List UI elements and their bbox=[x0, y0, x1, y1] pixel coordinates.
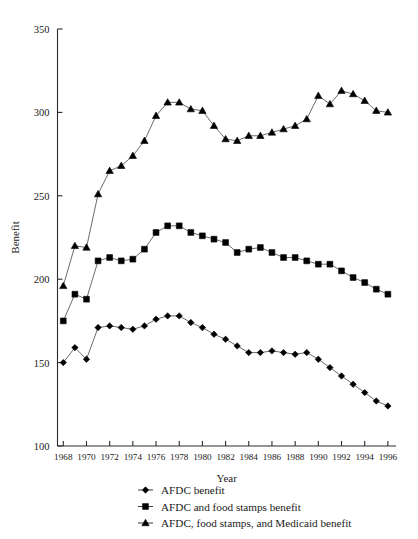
x-tick-label: 1988 bbox=[286, 452, 305, 462]
data-point-marker bbox=[269, 250, 275, 256]
data-point-marker bbox=[141, 137, 148, 143]
x-tick-label: 1976 bbox=[147, 452, 166, 462]
data-point-marker bbox=[292, 351, 298, 357]
data-point-marker bbox=[153, 316, 159, 322]
data-point-marker bbox=[72, 291, 78, 297]
y-tick-label: 100 bbox=[34, 441, 50, 452]
data-point-marker bbox=[280, 349, 286, 355]
data-point-marker bbox=[281, 255, 287, 261]
series-square bbox=[60, 223, 390, 324]
data-point-marker bbox=[176, 313, 182, 319]
y-tick-label: 350 bbox=[34, 24, 50, 35]
x-tick-label: 1972 bbox=[100, 452, 119, 462]
data-point-marker bbox=[257, 349, 263, 355]
y-axis: 100150200250300350 bbox=[34, 24, 63, 452]
x-tick-label: 1986 bbox=[263, 452, 282, 462]
data-point-marker bbox=[106, 167, 113, 173]
data-point-marker bbox=[362, 280, 368, 286]
data-point-marker bbox=[373, 286, 379, 292]
data-point-marker bbox=[327, 364, 333, 370]
legend-item: AFDC, food stamps, and Medicaid benefit bbox=[138, 517, 352, 529]
data-point-marker bbox=[176, 99, 183, 105]
x-tick-label: 1970 bbox=[77, 452, 96, 462]
data-point-marker bbox=[118, 258, 124, 264]
data-point-marker bbox=[385, 403, 391, 409]
data-point-marker bbox=[327, 261, 333, 267]
x-tick-label: 1968 bbox=[54, 452, 73, 462]
x-tick-label: 1974 bbox=[124, 452, 143, 462]
data-point-marker bbox=[338, 373, 344, 379]
y-tick-label: 200 bbox=[34, 274, 50, 285]
data-point-marker bbox=[373, 398, 379, 404]
x-tick-label: 1990 bbox=[309, 452, 328, 462]
legend-item: AFDC benefit bbox=[138, 484, 226, 496]
data-point-marker bbox=[315, 261, 321, 267]
chart-legend: AFDC benefitAFDC and food stamps benefit… bbox=[138, 484, 352, 529]
data-point-marker bbox=[164, 313, 170, 319]
data-point-marker bbox=[188, 319, 194, 325]
data-point-marker bbox=[303, 115, 310, 121]
x-tick-label: 1994 bbox=[356, 452, 375, 462]
data-point-marker bbox=[223, 240, 229, 246]
benefit-line-chart: 100150200250300350 196819701972197419761… bbox=[0, 0, 418, 539]
data-point-marker bbox=[269, 348, 275, 354]
y-tick-label: 150 bbox=[34, 358, 50, 369]
data-point-marker bbox=[95, 324, 101, 330]
data-point-marker bbox=[142, 246, 148, 252]
data-point-marker bbox=[164, 99, 171, 105]
legend-item: AFDC and food stamps benefit bbox=[138, 501, 302, 513]
data-point-marker bbox=[141, 323, 147, 329]
x-tick-label: 1984 bbox=[240, 452, 259, 462]
data-point-marker bbox=[130, 256, 136, 262]
legend-marker-diamond-icon bbox=[142, 487, 148, 493]
data-point-marker bbox=[385, 291, 391, 297]
data-point-marker bbox=[246, 349, 252, 355]
data-point-marker bbox=[350, 275, 356, 281]
legend-item-label: AFDC and food stamps benefit bbox=[161, 501, 302, 513]
legend-item-label: AFDC benefit bbox=[161, 484, 226, 496]
data-point-marker bbox=[339, 268, 345, 274]
series-polyline bbox=[63, 316, 388, 406]
data-point-marker bbox=[199, 324, 205, 330]
data-point-marker bbox=[350, 381, 356, 387]
data-point-marker bbox=[95, 258, 101, 264]
x-tick-label: 1978 bbox=[170, 452, 189, 462]
data-point-marker bbox=[107, 255, 113, 261]
data-point-marker bbox=[246, 246, 252, 252]
data-point-marker bbox=[338, 87, 345, 93]
data-point-marker bbox=[361, 97, 368, 103]
data-point-marker bbox=[315, 356, 321, 362]
data-point-marker bbox=[234, 250, 240, 256]
data-point-marker bbox=[234, 343, 240, 349]
data-point-marker bbox=[304, 349, 310, 355]
data-point-marker bbox=[60, 318, 66, 324]
x-tick-label: 1980 bbox=[193, 452, 212, 462]
data-point-marker bbox=[188, 230, 194, 236]
x-tick-label: 1982 bbox=[216, 452, 235, 462]
legend-marker-square-icon bbox=[143, 504, 149, 510]
x-tick-label: 1996 bbox=[379, 452, 398, 462]
data-point-marker bbox=[60, 282, 67, 288]
data-point-marker bbox=[94, 190, 101, 196]
y-tick-label: 300 bbox=[34, 107, 50, 118]
x-axis-title: Year bbox=[217, 472, 238, 484]
data-point-marker bbox=[304, 258, 310, 264]
data-point-marker bbox=[257, 245, 263, 251]
data-point-marker bbox=[71, 242, 78, 248]
data-point-marker bbox=[245, 132, 252, 138]
data-point-marker bbox=[118, 324, 124, 330]
data-point-marker bbox=[292, 255, 298, 261]
data-point-marker bbox=[153, 230, 159, 236]
data-point-marker bbox=[211, 331, 217, 337]
series-diamond bbox=[60, 313, 391, 409]
data-point-marker bbox=[176, 223, 182, 229]
data-point-marker bbox=[106, 323, 112, 329]
data-point-marker bbox=[130, 326, 136, 332]
data-point-marker bbox=[315, 92, 322, 98]
data-point-marker bbox=[222, 336, 228, 342]
data-point-marker bbox=[187, 105, 194, 111]
chart-figure: 100150200250300350 196819701972197419761… bbox=[0, 0, 418, 539]
data-point-marker bbox=[200, 233, 206, 239]
y-tick-label: 250 bbox=[34, 191, 50, 202]
y-axis-title: Benefit bbox=[9, 221, 21, 253]
